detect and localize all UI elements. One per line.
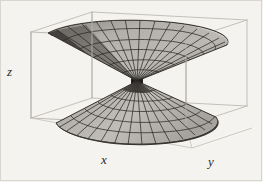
axis-label-x: x	[101, 153, 107, 166]
double-cone-figure	[0, 0, 263, 182]
axis-label-z: z	[7, 65, 12, 78]
figure-container: z x y	[0, 0, 263, 182]
axis-label-y: y	[208, 155, 214, 168]
